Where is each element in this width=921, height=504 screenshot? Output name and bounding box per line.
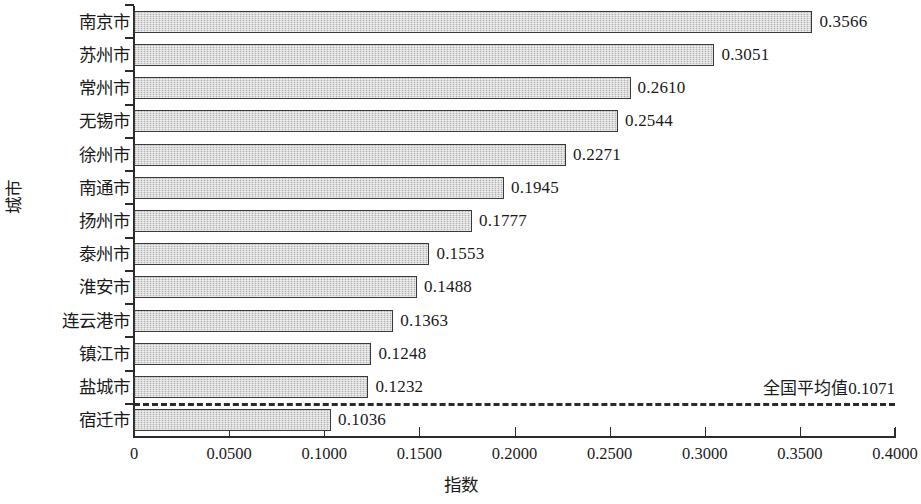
y-axis-category-label: 徐州市 (0, 144, 130, 166)
bar (134, 310, 393, 332)
y-axis-category-label: 苏州市 (0, 44, 130, 66)
x-axis-tick-label: 0.3000 (682, 443, 727, 465)
y-axis-tick (125, 370, 134, 372)
y-axis-category-label: 淮安市 (0, 276, 130, 298)
y-axis-tick (125, 4, 134, 6)
y-axis-category-label: 南京市 (0, 11, 130, 33)
x-axis-tick-label: 0.1500 (397, 443, 442, 465)
y-axis-category-label: 镇江市 (0, 343, 130, 365)
y-axis-tick (125, 137, 134, 139)
y-axis-tick (125, 237, 134, 239)
bar (134, 243, 429, 265)
bar (134, 376, 368, 398)
x-axis-tick (800, 427, 801, 437)
y-axis-category-label: 扬州市 (0, 210, 130, 232)
y-axis-category-label: 连云港市 (0, 310, 130, 332)
national-average-line (134, 403, 895, 406)
x-axis-tick (895, 427, 896, 437)
bar-value-label: 0.1945 (511, 178, 559, 198)
bar-value-label: 0.2271 (573, 145, 621, 165)
bar (134, 409, 331, 431)
bar-chart: 城市 南京市苏州市常州市无锡市徐州市南通市扬州市泰州市淮安市连云港市镇江市盐城市… (0, 0, 921, 504)
bar (134, 276, 417, 298)
bar (134, 77, 631, 99)
x-axis-tick-label: 0.3500 (777, 443, 822, 465)
y-axis-tick (125, 70, 134, 72)
bar-value-label: 0.2544 (625, 111, 673, 131)
x-axis-tick-label: 0.0500 (206, 443, 251, 465)
plot-area: 0.35660.30510.26100.25440.22710.19450.17… (134, 4, 895, 436)
y-axis-category-label: 泰州市 (0, 243, 130, 265)
national-average-label: 全国平均值0.1071 (763, 379, 895, 399)
y-axis-tick (125, 170, 134, 172)
x-axis-title: 指数 (0, 473, 921, 497)
bar-value-label: 0.1036 (338, 410, 386, 430)
bar (134, 144, 566, 166)
x-axis-tick-label: 0 (130, 443, 138, 465)
bar-value-label: 0.1488 (424, 277, 472, 297)
bar (134, 210, 472, 232)
bar (134, 343, 371, 365)
bar (134, 110, 618, 132)
bar-value-label: 0.1248 (378, 344, 426, 364)
y-axis-category-label: 无锡市 (0, 110, 130, 132)
x-axis-tick-label: 0.1000 (302, 443, 347, 465)
x-axis-tick-label: 0.2000 (492, 443, 537, 465)
bar-value-label: 0.3051 (721, 45, 769, 65)
y-axis-category-labels: 南京市苏州市常州市无锡市徐州市南通市扬州市泰州市淮安市连云港市镇江市盐城市宿迁市 (0, 4, 130, 436)
bar-value-label: 0.3566 (819, 12, 867, 32)
x-axis-tick-labels: 00.05000.10000.15000.20000.25000.30000.3… (134, 443, 895, 467)
y-axis-tick (125, 37, 134, 39)
bar-value-label: 0.1553 (436, 244, 484, 264)
x-axis-tick (705, 427, 706, 437)
x-axis-tick (515, 427, 516, 437)
bar-value-label: 0.1777 (479, 211, 527, 231)
bar (134, 177, 504, 199)
y-axis-tick (125, 303, 134, 305)
y-axis-category-label: 南通市 (0, 177, 130, 199)
y-axis-category-label: 盐城市 (0, 376, 130, 398)
bar-value-label: 0.1232 (375, 377, 423, 397)
y-axis-tick (125, 104, 134, 106)
bar-value-label: 0.2610 (638, 78, 686, 98)
y-axis-tick (125, 203, 134, 205)
x-axis-tick-label: 0.4000 (872, 443, 917, 465)
x-axis-tick-label: 0.2500 (587, 443, 632, 465)
y-axis-category-label: 宿迁市 (0, 409, 130, 431)
bar (134, 44, 714, 66)
y-axis-tick (125, 336, 134, 338)
y-axis-tick (125, 270, 134, 272)
y-axis-tick (125, 403, 134, 405)
x-axis-tick (419, 427, 420, 437)
x-axis-tick (610, 427, 611, 437)
bar (134, 11, 812, 33)
y-axis-category-label: 常州市 (0, 77, 130, 99)
bar-value-label: 0.1363 (400, 311, 448, 331)
